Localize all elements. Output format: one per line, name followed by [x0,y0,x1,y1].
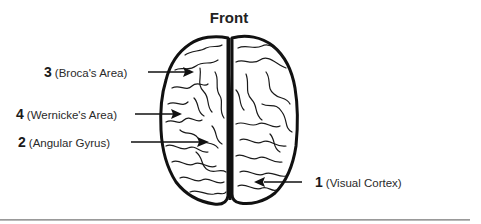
label-text: (Angular Gyrus) [29,137,110,149]
midline-fissure [229,38,230,200]
label-wernickes-area: 4(Wernicke's Area) [16,107,117,122]
label-brocas-area: 3(Broca's Area) [44,65,127,80]
label-number: 2 [18,134,26,150]
label-visual-cortex: 1(Visual Cortex) [315,175,402,190]
label-text: (Broca's Area) [55,67,128,79]
label-number: 4 [16,106,24,122]
label-text: (Wernicke's Area) [27,109,117,121]
label-angular-gyrus: 2(Angular Gyrus) [18,135,110,150]
label-number: 1 [315,174,323,190]
bottom-divider [0,219,470,221]
label-number: 3 [44,64,52,80]
label-text: (Visual Cortex) [326,177,402,189]
